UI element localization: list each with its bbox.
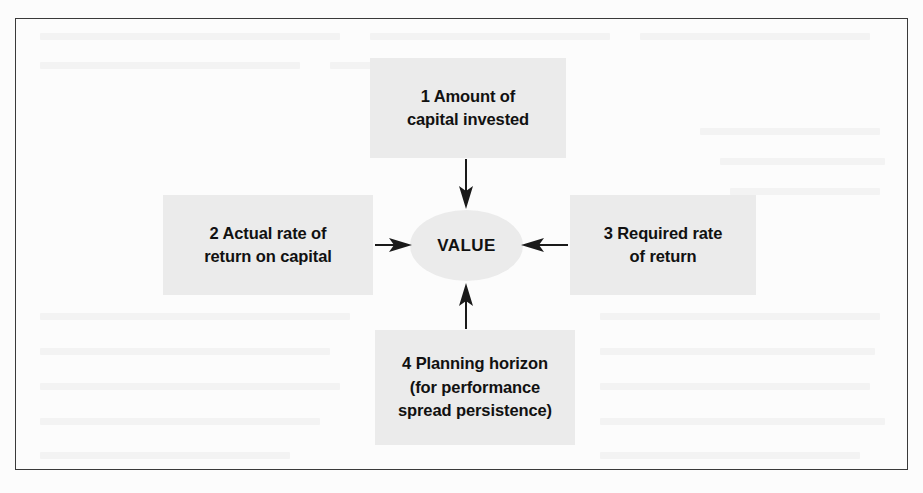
node-box-actual-rate-of-return-on-capital: 2 Actual rate of return on capital (163, 195, 373, 295)
center-node-label: VALUE (437, 236, 495, 256)
node-label: 2 Actual rate of return on capital (204, 222, 332, 269)
node-box-required-rate-of-return: 3 Required rate of return (570, 195, 756, 295)
node-box-planning-horizon: 4 Planning horizon (for performance spre… (375, 330, 575, 445)
node-label: 3 Required rate of return (604, 222, 723, 269)
node-label: 1 Amount of capital invested (407, 85, 529, 132)
node-box-amount-of-capital-invested: 1 Amount of capital invested (370, 58, 566, 158)
center-node-value: VALUE (410, 210, 523, 281)
node-label: 4 Planning horizon (for performance spre… (398, 352, 552, 422)
